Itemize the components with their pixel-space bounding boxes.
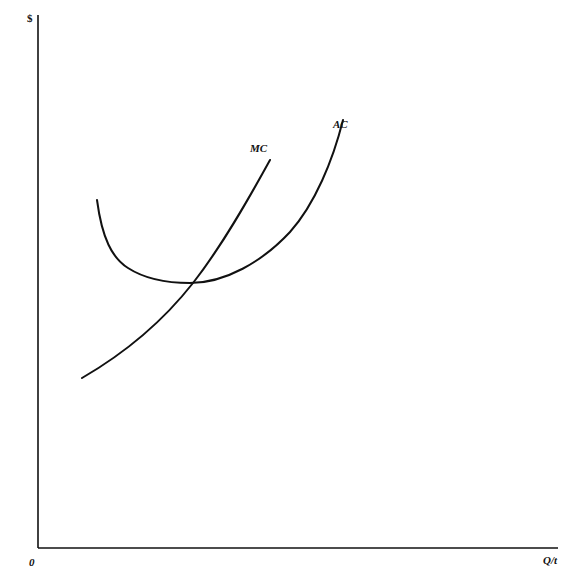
- ac-label: AC: [332, 118, 348, 130]
- y-axis-label: $: [27, 12, 33, 24]
- origin-label: 0: [29, 556, 35, 568]
- mc-label: MC: [249, 142, 268, 154]
- cost-curves-chart: $ 0 Q/t MC AC: [0, 0, 588, 572]
- x-axis-label: Q/t: [543, 554, 558, 566]
- ac-curve: [97, 120, 343, 283]
